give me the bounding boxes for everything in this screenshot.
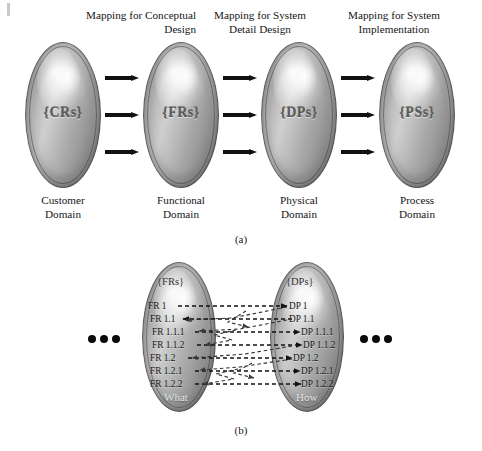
mapping-label-system-implementation: Mapping for System Implementation <box>323 9 465 36</box>
fr-item-4: FR 1.2 <box>150 353 175 364</box>
dot <box>360 335 368 343</box>
ellipsis-right-dots <box>360 335 392 343</box>
mapping-label-system-detail-design: Mapping for System Detail Design <box>196 9 324 36</box>
dp-item-3: DP 1.1.2 <box>303 340 335 351</box>
domain-ellipse-physical: {DPs} <box>261 42 337 188</box>
fr-item-3: FR 1.1.2 <box>152 340 184 351</box>
caption-part-a: (a) <box>221 233 261 245</box>
domain-label-process: Process Domain <box>371 194 463 221</box>
dot <box>112 335 120 343</box>
domain-ellipse-customer: {CRs} <box>25 42 101 188</box>
dp-item-6: DP 1.2.2 <box>301 379 333 390</box>
fr-item-2: FR 1.1.1 <box>152 327 184 338</box>
mapping-arrow-3-bottom <box>341 149 375 155</box>
figure-page: Mapping for Conceptual Design Mapping fo… <box>0 0 482 451</box>
mapping-arrow-2-mid <box>223 112 257 118</box>
mapping-arrow-1-top <box>105 75 139 81</box>
domain-ellipse-process: {PSs} <box>379 42 455 188</box>
domain-symbol-physical: {DPs} <box>261 105 337 121</box>
fr-item-5: FR 1.2.1 <box>150 366 182 377</box>
domain-label-physical: Physical Domain <box>253 194 345 221</box>
domain-symbol-process: {PSs} <box>379 105 455 121</box>
dot <box>100 335 108 343</box>
hierarchy-symbol-frs: {FRs} <box>157 276 184 287</box>
page-corner-mark <box>7 3 10 16</box>
hierarchy-footer-how: How <box>296 391 317 403</box>
fr-item-1: FR 1.1 <box>150 314 175 325</box>
dp-item-2: DP 1.1.1 <box>301 327 333 338</box>
mapping-label-conceptual-design: Mapping for Conceptual Design <box>48 9 196 36</box>
mapping-arrow-3-mid <box>341 112 375 118</box>
fr-item-0: FR 1 <box>148 301 166 312</box>
domain-ellipse-functional: {FRs} <box>143 42 219 188</box>
dot <box>384 335 392 343</box>
mapping-arrow-1-bottom <box>105 149 139 155</box>
fr-item-6: FR 1.2.2 <box>150 379 182 390</box>
dot <box>372 335 380 343</box>
dp-item-0: DP 1 <box>289 301 308 312</box>
ellipsis-left-dots <box>88 335 120 343</box>
mapping-arrow-3-top <box>341 75 375 81</box>
dp-item-5: DP 1.2.1 <box>301 366 333 377</box>
domain-label-customer: Customer Domain <box>17 194 109 221</box>
mapping-arrow-1-mid <box>105 112 139 118</box>
mapping-arrow-2-top <box>223 75 257 81</box>
mapping-arrow-2-bottom <box>223 149 257 155</box>
domain-symbol-customer: {CRs} <box>25 105 101 121</box>
caption-part-b: (b) <box>221 424 261 436</box>
hierarchy-symbol-dps: {DPs} <box>286 276 314 287</box>
domain-label-functional: Functional Domain <box>135 194 227 221</box>
hierarchy-footer-what: What <box>164 391 188 403</box>
domain-symbol-functional: {FRs} <box>143 105 219 121</box>
dot <box>88 335 96 343</box>
dp-item-4: DP 1.2 <box>293 353 319 364</box>
dp-item-1: DP 1.1 <box>289 314 315 325</box>
